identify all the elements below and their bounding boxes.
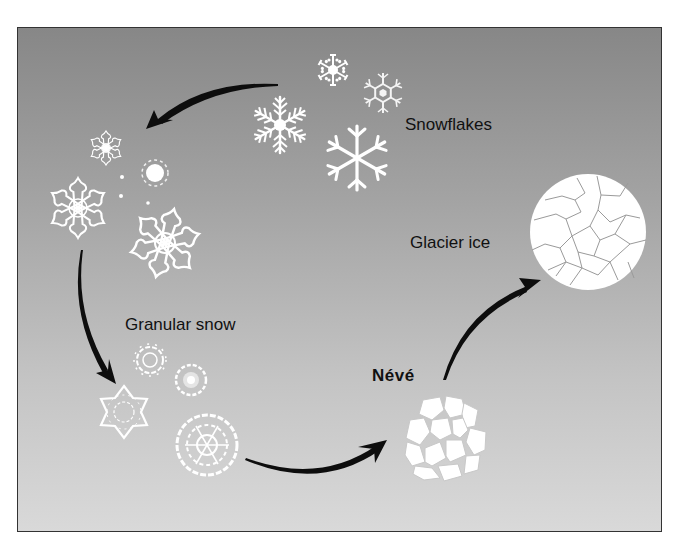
granular-crystal-icon (101, 386, 147, 438)
granular-crystal-icon (134, 344, 166, 376)
granular-crystal-icon (177, 415, 237, 475)
ice-particle (119, 194, 123, 198)
label-neve: Névé (372, 367, 415, 384)
arrow-granular-to-neve-icon (245, 440, 387, 474)
rimed-crystal-icon (89, 131, 123, 165)
diagram-artwork (0, 0, 682, 556)
snowflake-hex-icon (363, 73, 403, 113)
snowflake-large-icon (325, 126, 388, 190)
snowflake-fern-icon (252, 97, 307, 153)
rimed-crystal-icon (142, 160, 168, 186)
granular-crystal-icon (176, 365, 206, 395)
label-glacier-ice: Glacier ice (410, 234, 490, 251)
label-granular-snow: Granular snow (125, 316, 236, 333)
arrow-neve-to-glacier-icon (443, 278, 541, 380)
granular-crystals-group (101, 344, 237, 475)
snowflakes-group (252, 55, 403, 190)
rimed-crystals-group (48, 131, 201, 279)
neve-grains-icon (405, 396, 486, 481)
snowflake-small-icon (317, 55, 349, 85)
arrow-granular-down-icon (78, 250, 116, 384)
glacier-ice-icon (530, 174, 646, 290)
ice-particle (120, 175, 124, 179)
rimed-crystal-icon (48, 178, 108, 238)
label-snowflakes: Snowflakes (405, 116, 492, 133)
ice-particle (146, 201, 150, 205)
arrow-snowflakes-to-granular-icon (146, 84, 278, 129)
rimed-crystal-icon (129, 207, 202, 280)
